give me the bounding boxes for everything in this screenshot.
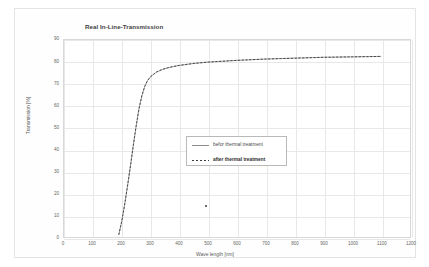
gridline [412, 40, 413, 237]
x-tick-label: 1100 [370, 241, 394, 246]
x-tick-label: 0 [51, 241, 75, 246]
gridline [64, 239, 410, 240]
y-tick-label: 60 [41, 103, 59, 108]
solid-line-icon [192, 142, 209, 148]
x-tick-label: 1200 [399, 241, 423, 246]
legend-entry-after: after thermal treatment [187, 152, 286, 167]
y-tick-label: 30 [41, 169, 59, 174]
x-tick-label: 900 [312, 241, 336, 246]
x-tick-label: 100 [80, 241, 104, 246]
y-tick-label: 50 [41, 125, 59, 130]
legend-label-before: befor thermal treatment [213, 142, 263, 147]
x-tick-label: 600 [225, 241, 249, 246]
chart-frame: Real In-Line-Transmission 01002003004005… [14, 8, 416, 258]
x-tick-label: 400 [167, 241, 191, 246]
y-tick-label: 10 [41, 213, 59, 218]
x-tick-label: 300 [138, 241, 162, 246]
y-tick-label: 20 [41, 191, 59, 196]
legend-label-after: after thermal treatment [213, 157, 265, 162]
stray-marker [205, 205, 207, 207]
legend-entry-before: befor thermal treatment [187, 137, 286, 152]
y-tick-label: 80 [41, 59, 59, 64]
x-axis-title: Wave length [nm] [15, 252, 415, 257]
x-tick-label: 200 [109, 241, 133, 246]
x-tick-label: 1000 [341, 241, 365, 246]
y-tick-label: 90 [41, 36, 59, 41]
x-tick-label: 700 [254, 241, 278, 246]
y-axis-title: Transmission [%] [26, 61, 31, 171]
x-tick-label: 500 [196, 241, 220, 246]
x-tick-label: 800 [283, 241, 307, 246]
y-tick-label: 0 [41, 235, 59, 240]
legend: befor thermal treatment after thermal tr… [186, 136, 287, 166]
dashed-line-icon [192, 157, 209, 163]
chart-title: Real In-Line-Transmission [85, 23, 163, 30]
y-tick-label: 40 [41, 147, 59, 152]
y-tick-label: 70 [41, 81, 59, 86]
